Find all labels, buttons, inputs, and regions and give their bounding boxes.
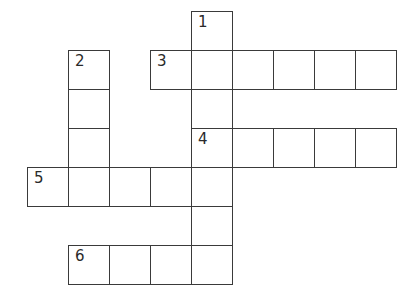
crossword-cell[interactable]: 5	[27, 167, 69, 207]
clue-number: 3	[157, 54, 167, 69]
crossword-cell[interactable]	[150, 245, 192, 285]
clue-number: 2	[75, 54, 85, 69]
crossword-cell[interactable]	[314, 128, 356, 168]
crossword-cell[interactable]	[68, 89, 110, 129]
crossword-cell[interactable]: 4	[191, 128, 233, 168]
crossword-cell[interactable]	[273, 128, 315, 168]
clue-number: 1	[198, 15, 208, 30]
crossword-cell[interactable]: 6	[68, 245, 110, 285]
clue-number: 6	[75, 249, 85, 264]
crossword-cell[interactable]	[191, 89, 233, 129]
crossword-cell[interactable]	[355, 128, 397, 168]
crossword-cell[interactable]	[191, 206, 233, 246]
crossword-cell[interactable]	[191, 245, 233, 285]
crossword-cell[interactable]	[232, 128, 274, 168]
crossword-cell[interactable]: 2	[68, 50, 110, 90]
crossword-cell[interactable]	[355, 50, 397, 90]
crossword-cell[interactable]	[191, 167, 233, 207]
crossword-cell[interactable]	[68, 167, 110, 207]
crossword-cell[interactable]	[68, 128, 110, 168]
crossword-cell[interactable]: 3	[150, 50, 192, 90]
crossword-cell[interactable]	[314, 50, 356, 90]
crossword-grid: 142356	[0, 0, 416, 294]
clue-number: 4	[198, 132, 208, 147]
crossword-cell[interactable]	[273, 50, 315, 90]
crossword-cell[interactable]	[232, 50, 274, 90]
crossword-cell[interactable]	[109, 167, 151, 207]
crossword-cell[interactable]	[109, 245, 151, 285]
crossword-cell[interactable]	[150, 167, 192, 207]
clue-number: 5	[34, 171, 44, 186]
crossword-cell[interactable]	[191, 50, 233, 90]
crossword-cell[interactable]: 1	[191, 11, 233, 51]
